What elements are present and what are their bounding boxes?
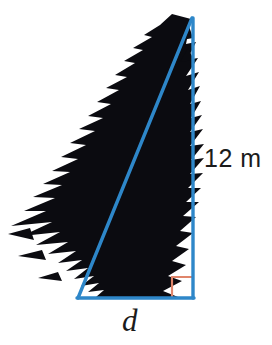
base-label: d — [122, 304, 138, 338]
diagram-canvas — [0, 0, 272, 345]
height-label: 12 m — [204, 144, 262, 172]
geometry-figure: 12 m d — [0, 0, 272, 345]
